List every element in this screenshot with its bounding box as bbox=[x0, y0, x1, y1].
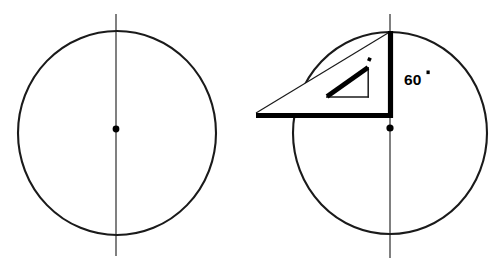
degree-symbol-icon bbox=[427, 71, 430, 75]
geometry-diagram-svg: 60 bbox=[0, 0, 502, 273]
right-center-dot bbox=[386, 124, 393, 131]
geometry-figure-canvas: 60 bbox=[0, 0, 502, 273]
angle-label-60: 60 bbox=[404, 71, 422, 88]
left-panel-group bbox=[18, 14, 216, 256]
angle-label-group: 60 bbox=[404, 71, 430, 89]
left-circle-outline bbox=[18, 31, 216, 235]
left-center-dot bbox=[113, 126, 120, 133]
right-panel-group: 60 bbox=[256, 14, 487, 258]
set-square-group bbox=[256, 31, 392, 118]
